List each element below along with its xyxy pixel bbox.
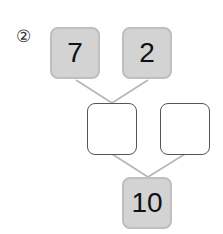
top-right-number-box: 2	[122, 27, 172, 79]
middle-right-answer-box[interactable]	[160, 103, 210, 155]
top-left-number-box: 7	[50, 27, 100, 79]
middle-left-answer-box[interactable]	[87, 103, 137, 155]
bottom-number-box: 10	[122, 177, 172, 229]
problem-number: ②	[16, 26, 31, 47]
